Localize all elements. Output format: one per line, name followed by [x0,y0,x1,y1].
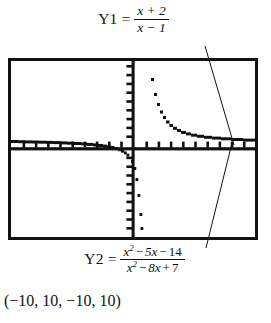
y1-function-name: Y1 [98,10,117,27]
y2-fraction: x2−5x−14 x2−8x+7 [120,244,184,276]
y2-denominator: x2−8x+7 [120,259,184,275]
y1-denominator: x − 1 [134,19,169,36]
window-setting: (−10, 10, −10, 10) [4,292,121,310]
y2-function-name: Y2 [84,250,103,267]
y2-label: Y2= x2−5x−14 x2−8x+7 [0,245,269,277]
y2-numerator: x2−5x−14 [120,244,184,259]
y1-equals-sign: = [117,10,134,27]
y1-fraction: x + 2 x − 1 [134,3,169,36]
graphing-calculator-figure: Y1= x + 2 x − 1 [0,0,271,323]
y1-numerator: x + 2 [134,3,169,19]
graph-plot-area [11,61,255,237]
calculator-screen [8,58,258,240]
y1-label: Y1= x + 2 x − 1 [0,4,267,37]
y2-equals-sign: = [104,250,121,267]
